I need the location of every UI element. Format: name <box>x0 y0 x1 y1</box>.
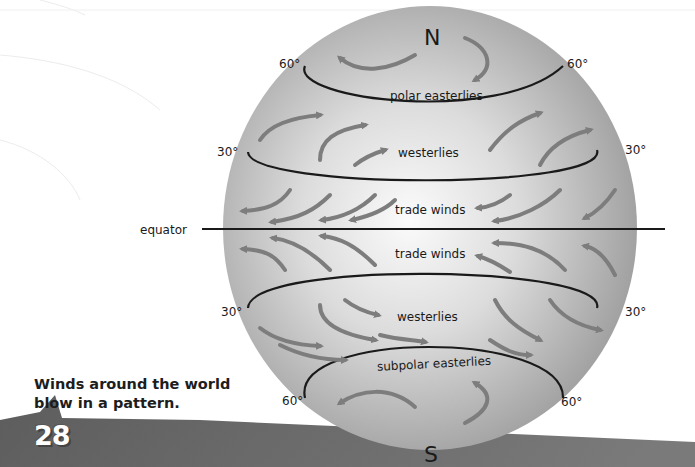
page-number: 28 <box>34 420 70 451</box>
belt-westerlies-north: westerlies <box>398 146 459 160</box>
lat-60s-right: 60° <box>561 395 582 409</box>
lat-30n-right: 30° <box>625 143 646 157</box>
figure-caption: Winds around the world blow in a pattern… <box>34 375 230 413</box>
lat-60n-right: 60° <box>567 57 588 71</box>
south-pole-label: S <box>424 442 438 467</box>
caption-line-1: Winds around the world <box>34 375 230 394</box>
equator-label: equator <box>140 223 187 237</box>
belt-trade-winds-north: trade winds <box>395 203 465 217</box>
lat-30s-left: 30° <box>221 305 242 319</box>
belt-westerlies-south: westerlies <box>397 310 458 324</box>
lat-30s-right: 30° <box>625 305 646 319</box>
north-pole-label: N <box>424 25 440 50</box>
lat-30n-left: 30° <box>217 145 238 159</box>
lat-60n-left: 60° <box>279 57 300 71</box>
caption-line-2: blow in a pattern. <box>34 394 230 413</box>
lat-60s-left: 60° <box>282 394 303 408</box>
belt-trade-winds-south: trade winds <box>395 247 465 261</box>
belt-polar-easterlies: polar easterlies <box>390 89 483 103</box>
